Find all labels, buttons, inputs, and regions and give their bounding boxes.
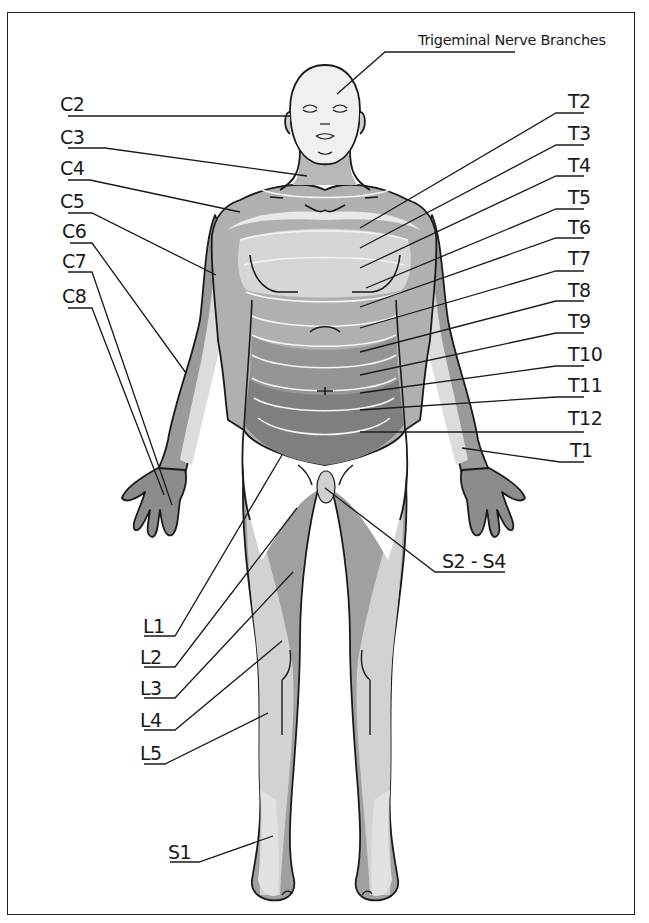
label-t11: T11 bbox=[568, 376, 602, 395]
label-t6: T6 bbox=[568, 218, 591, 237]
label-t10: T10 bbox=[568, 345, 602, 364]
label-t1: T1 bbox=[570, 441, 593, 460]
label-c7: C7 bbox=[62, 252, 86, 271]
label-l5: L5 bbox=[140, 744, 162, 763]
label-t2: T2 bbox=[568, 92, 591, 111]
label-t3: T3 bbox=[568, 124, 591, 143]
torso bbox=[212, 185, 437, 465]
label-t12: T12 bbox=[568, 409, 602, 428]
label-c6: C6 bbox=[62, 222, 86, 241]
label-c2: C2 bbox=[60, 95, 84, 114]
label-c3: C3 bbox=[60, 128, 84, 147]
label-c5: C5 bbox=[60, 192, 84, 211]
label-t4: T4 bbox=[568, 156, 591, 175]
label-s1: S1 bbox=[168, 843, 191, 862]
label-l2: L2 bbox=[140, 648, 162, 667]
label-s2-s4: S2 - S4 bbox=[442, 552, 506, 571]
body-figure bbox=[0, 0, 649, 923]
label-l4: L4 bbox=[140, 711, 162, 730]
label-trigeminal: Trigeminal Nerve Branches bbox=[418, 33, 606, 48]
label-t8: T8 bbox=[568, 281, 591, 300]
label-t7: T7 bbox=[568, 249, 591, 268]
label-l3: L3 bbox=[140, 679, 162, 698]
label-t9: T9 bbox=[568, 312, 591, 331]
label-l1: L1 bbox=[143, 617, 165, 636]
label-c8: C8 bbox=[62, 287, 86, 306]
label-c4: C4 bbox=[60, 159, 84, 178]
label-t5: T5 bbox=[568, 188, 591, 207]
